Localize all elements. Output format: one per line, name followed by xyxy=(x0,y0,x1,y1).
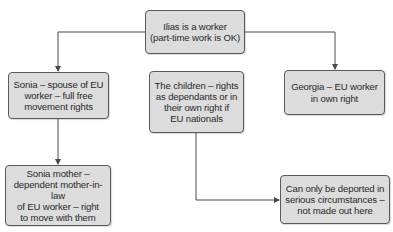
node-sonia-spouse: Sonia – spouse of EU worker – full free … xyxy=(8,72,109,119)
node-sonia-label: Sonia – spouse of EU worker – full free … xyxy=(14,79,104,113)
node-georgia-label: Georgia – EU worker in own right xyxy=(291,81,378,103)
node-deportation: Can only be deported in serious circumst… xyxy=(280,175,390,224)
edge-children-to-deportation xyxy=(196,133,279,200)
edge-ilias-to-georgia xyxy=(245,32,335,69)
node-sonia-mother: Sonia mother – dependent mother-in-law o… xyxy=(5,165,111,226)
flowchart-diagram: Ilias is a worker (part-time work is OK)… xyxy=(0,0,393,232)
node-children: The children – rights as dependants or i… xyxy=(149,71,244,133)
node-sonia-mother-label: Sonia mother – dependent mother-in-law o… xyxy=(10,168,106,224)
node-georgia: Georgia – EU worker in own right xyxy=(284,70,385,115)
edge-ilias-to-sonia xyxy=(58,32,145,71)
node-deportation-label: Can only be deported in serious circumst… xyxy=(285,183,384,217)
node-children-label: The children – rights as dependants or i… xyxy=(155,80,239,125)
node-ilias-label: Ilias is a worker (part-time work is OK) xyxy=(150,21,240,43)
node-ilias-worker: Ilias is a worker (part-time work is OK) xyxy=(145,10,245,54)
